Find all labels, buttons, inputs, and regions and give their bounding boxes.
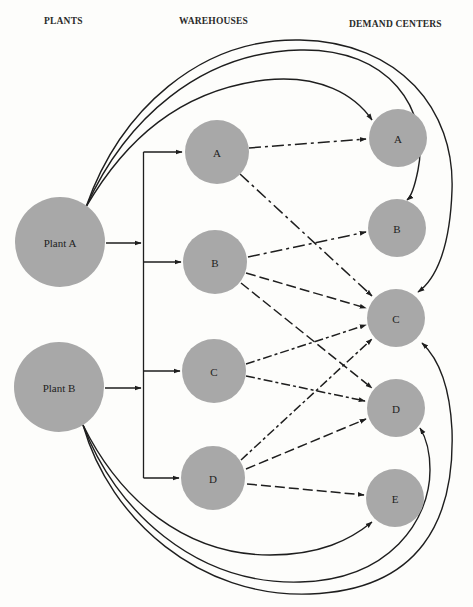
demand-center-node-a[interactable]: A (369, 109, 427, 167)
warehouse-a-label: A (213, 147, 221, 159)
warehouse-node-c[interactable]: C (182, 339, 246, 403)
plant-a-label: Plant A (44, 237, 77, 249)
demand-center-node-c[interactable]: C (367, 289, 425, 347)
demand-center-c-label: C (392, 313, 399, 325)
plant-node-b[interactable]: Plant B (14, 342, 104, 432)
edge-wh-b-to-dc-b (248, 232, 366, 257)
demand-center-node-e[interactable]: E (366, 469, 424, 527)
warehouse-node-d[interactable]: D (181, 446, 245, 510)
warehouse-b-label: B (211, 257, 218, 269)
warehouse-d-label: D (209, 473, 217, 485)
edge-wh-d-to-dc-e (247, 484, 364, 495)
edge-plant-a-to-dc-b (86, 50, 420, 207)
warehouse-c-label: C (210, 366, 217, 378)
edge-wh-a-to-dc-a (249, 139, 366, 148)
plant-node-a[interactable]: Plant A (15, 197, 105, 287)
network-diagram: Plant A Plant B A B C D A B C D E (0, 0, 473, 607)
edge-wh-d-to-dc-c (241, 339, 372, 460)
plant-b-label: Plant B (43, 382, 76, 394)
warehouse-node-b[interactable]: B (183, 230, 247, 294)
demand-center-node-d[interactable]: D (367, 379, 425, 437)
edge-wh-b-to-dc-d (241, 283, 372, 388)
warehouse-node-a[interactable]: A (185, 120, 249, 184)
demand-center-e-label: E (392, 493, 399, 505)
demand-center-d-label: D (392, 403, 400, 415)
demand-center-b-label: B (393, 223, 400, 235)
edge-wh-b-to-dc-c (246, 273, 366, 308)
edge-wh-c-to-dc-c (246, 325, 366, 364)
demand-center-node-b[interactable]: B (368, 199, 426, 257)
edge-wh-d-to-dc-d (246, 419, 366, 469)
demand-center-a-label: A (394, 133, 402, 145)
edge-wh-c-to-dc-d (246, 376, 365, 401)
